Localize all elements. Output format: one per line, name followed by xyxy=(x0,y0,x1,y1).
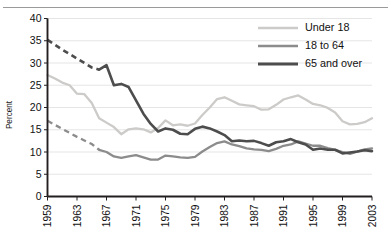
x-tick-label: 1983 xyxy=(219,204,230,227)
x-tick-label: 1963 xyxy=(72,204,83,227)
y-tick-label: 10 xyxy=(30,146,42,158)
y-tick-label: 35 xyxy=(30,34,42,46)
x-axis-ticks-group: 1959196319671971197519791983198719911995… xyxy=(42,197,378,228)
x-tick-label: 1967 xyxy=(101,204,112,227)
series-line-dashed xyxy=(48,40,100,70)
y-tick-label: 20 xyxy=(30,101,42,113)
x-tick-label: 1987 xyxy=(249,204,260,227)
legend-label-1: 18 to 64 xyxy=(305,39,344,51)
x-tick-label: 1979 xyxy=(190,204,201,227)
x-tick-label: 1991 xyxy=(278,204,289,227)
y-tick-label: 30 xyxy=(30,57,42,69)
y-tick-label: 25 xyxy=(30,79,42,91)
y-tick-label: 15 xyxy=(30,123,42,135)
y-tick-label: 0 xyxy=(36,190,42,202)
series-line xyxy=(48,75,373,134)
line-chart-canvas: 0510152025303540 19591963196719711975197… xyxy=(0,0,391,246)
y-tick-label: 5 xyxy=(36,168,42,180)
x-tick-label: 2003 xyxy=(367,204,378,227)
x-tick-label: 1999 xyxy=(337,204,348,227)
y-tick-label: 40 xyxy=(30,12,42,24)
x-tick-label: 1975 xyxy=(160,204,171,227)
y-axis-ticks-group: 0510152025303540 xyxy=(30,12,48,202)
chart-legend: Under 1818 to 6465 and over xyxy=(258,21,362,69)
y-axis-label: Percent xyxy=(5,100,14,129)
x-tick-label: 1971 xyxy=(131,204,142,227)
x-tick-label: 1959 xyxy=(42,204,53,227)
series-line-dashed xyxy=(48,121,100,150)
legend-label-0: Under 18 xyxy=(305,21,349,33)
x-tick-label: 1995 xyxy=(308,204,319,227)
chart-figure: 0510152025303540 19591963196719711975197… xyxy=(0,0,391,246)
legend-label-2: 65 and over xyxy=(305,57,362,69)
